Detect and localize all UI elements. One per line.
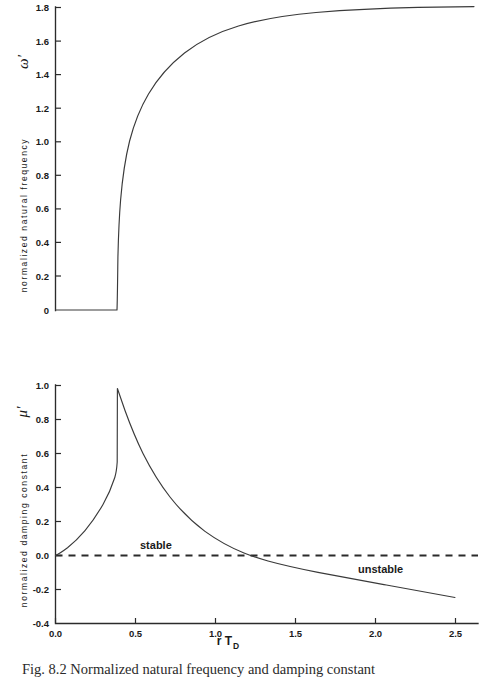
region-label-stable: stable — [140, 539, 172, 551]
y-axis-name-top: normalized natural frequency — [19, 138, 29, 292]
chart-panel-natural-frequency: 1.8 1.6 1.4 1.2 1.0 0.8 0.6 0.4 0.2 0 ω'… — [0, 0, 486, 340]
y-tick-label-top-4: 1.0 — [36, 136, 49, 147]
y-axis-symbol-omega-prime: ω' — [15, 54, 31, 69]
y-tick-label-bottom-3: 0.4 — [36, 482, 50, 493]
y-tick-label-top-7: 0.4 — [36, 237, 50, 248]
y-axis-name-bottom: normalized damping constant — [19, 453, 29, 607]
damping-constant-plot: 1.0 0.8 0.6 0.4 0.2 0.0 -0.2 -0.4 0.0 0.… — [0, 340, 486, 640]
y-tick-label-top-6: 0.6 — [36, 203, 49, 214]
y-tick-label-bottom-4: 0.2 — [36, 516, 49, 527]
y-axis-symbol-mu-prime: μ' — [14, 406, 30, 419]
y-tick-label-bottom-0: 1.0 — [36, 380, 49, 391]
y-tick-label-top-3: 1.2 — [36, 103, 49, 114]
region-label-unstable: unstable — [358, 563, 403, 575]
figure-root: 1.8 1.6 1.4 1.2 1.0 0.8 0.6 0.4 0.2 0 ω'… — [0, 0, 486, 678]
y-tick-label-top-5: 0.8 — [36, 170, 49, 181]
y-tick-label-bottom-6: -0.2 — [33, 584, 49, 595]
y-tick-label-top-0: 1.8 — [36, 2, 49, 13]
y-tick-label-top-9: 0 — [44, 305, 49, 316]
curve-normalized-natural-frequency — [56, 7, 475, 310]
y-tick-label-bottom-5: 0.0 — [36, 550, 49, 561]
axes-lines-bottom — [56, 385, 479, 624]
y-axis-ticks-bottom — [56, 386, 62, 590]
figure-caption: Fig. 8.2 Normalized natural frequency an… — [22, 661, 474, 678]
figure-caption-band: Fig. 8.2 Normalized natural frequency an… — [0, 640, 486, 678]
y-tick-label-top-8: 0.2 — [36, 271, 49, 282]
y-tick-label-top-1: 1.6 — [36, 36, 49, 47]
chart-panel-damping-constant: 1.0 0.8 0.6 0.4 0.2 0.0 -0.2 -0.4 0.0 0.… — [0, 340, 486, 640]
y-tick-label-bottom-2: 0.6 — [36, 448, 49, 459]
y-tick-label-bottom-1: 0.8 — [36, 414, 49, 425]
natural-frequency-plot: 1.8 1.6 1.4 1.2 1.0 0.8 0.6 0.4 0.2 0 ω'… — [0, 0, 486, 340]
y-axis-ticks-top — [56, 8, 62, 277]
y-tick-label-top-2: 1.4 — [36, 69, 50, 80]
